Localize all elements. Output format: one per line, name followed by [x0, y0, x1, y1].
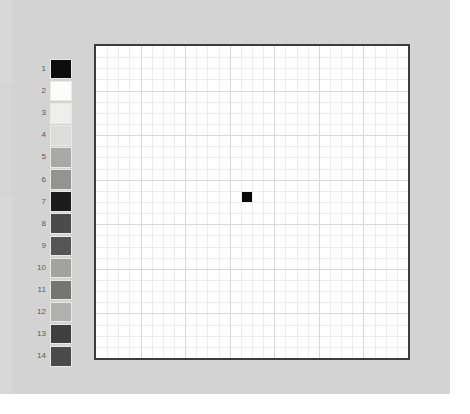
legend-item[interactable]: 10	[20, 257, 72, 279]
legend-item-label: 4	[41, 131, 50, 139]
legend-item-label: 7	[41, 198, 50, 206]
legend-item-label: 5	[41, 153, 50, 161]
legend-color-swatch[interactable]	[50, 346, 72, 367]
legend-color-swatch[interactable]	[50, 280, 72, 301]
legend-color-swatch[interactable]	[50, 81, 72, 102]
legend-color-swatch[interactable]	[50, 147, 72, 168]
legend-item[interactable]: 7	[20, 191, 72, 213]
legend-item-label: 1	[41, 65, 50, 73]
legend-item[interactable]: 11	[20, 279, 72, 301]
legend-item-label: 10	[37, 264, 50, 272]
legend-item-label: 3	[41, 109, 50, 117]
legend-item-label: 2	[41, 87, 50, 95]
palette-legend: 1234567891011121314	[20, 58, 72, 367]
legend-item[interactable]: 13	[20, 323, 72, 345]
application-panel: 1234567891011121314	[0, 0, 450, 394]
legend-color-swatch[interactable]	[50, 302, 72, 323]
legend-color-swatch[interactable]	[50, 169, 72, 190]
legend-item[interactable]: 14	[20, 345, 72, 367]
legend-item[interactable]: 9	[20, 235, 72, 257]
grid-plot-frame	[94, 44, 410, 360]
legend-color-swatch[interactable]	[50, 103, 72, 124]
legend-item[interactable]: 6	[20, 168, 72, 190]
legend-item[interactable]: 5	[20, 146, 72, 168]
legend-color-swatch[interactable]	[50, 236, 72, 257]
legend-item-label: 6	[41, 176, 50, 184]
legend-item-label: 8	[41, 220, 50, 228]
legend-color-swatch[interactable]	[50, 258, 72, 279]
legend-color-swatch[interactable]	[50, 125, 72, 146]
legend-color-swatch[interactable]	[50, 324, 72, 345]
left-edge-strip	[0, 0, 12, 394]
grid-plot-canvas[interactable]	[96, 46, 408, 358]
legend-item[interactable]: 8	[20, 213, 72, 235]
legend-item[interactable]: 12	[20, 301, 72, 323]
legend-item-label: 9	[41, 242, 50, 250]
legend-item[interactable]: 1	[20, 58, 72, 80]
legend-color-swatch[interactable]	[50, 213, 72, 234]
legend-item-label: 12	[37, 308, 50, 316]
clipped-side-widget	[1, 84, 12, 196]
legend-item-label: 11	[37, 286, 50, 294]
legend-item-label: 13	[37, 330, 50, 338]
legend-color-swatch[interactable]	[50, 59, 72, 80]
legend-item[interactable]: 2	[20, 80, 72, 102]
legend-item[interactable]: 4	[20, 124, 72, 146]
legend-item-label: 14	[37, 352, 50, 360]
legend-item[interactable]: 3	[20, 102, 72, 124]
legend-color-swatch[interactable]	[50, 191, 72, 212]
